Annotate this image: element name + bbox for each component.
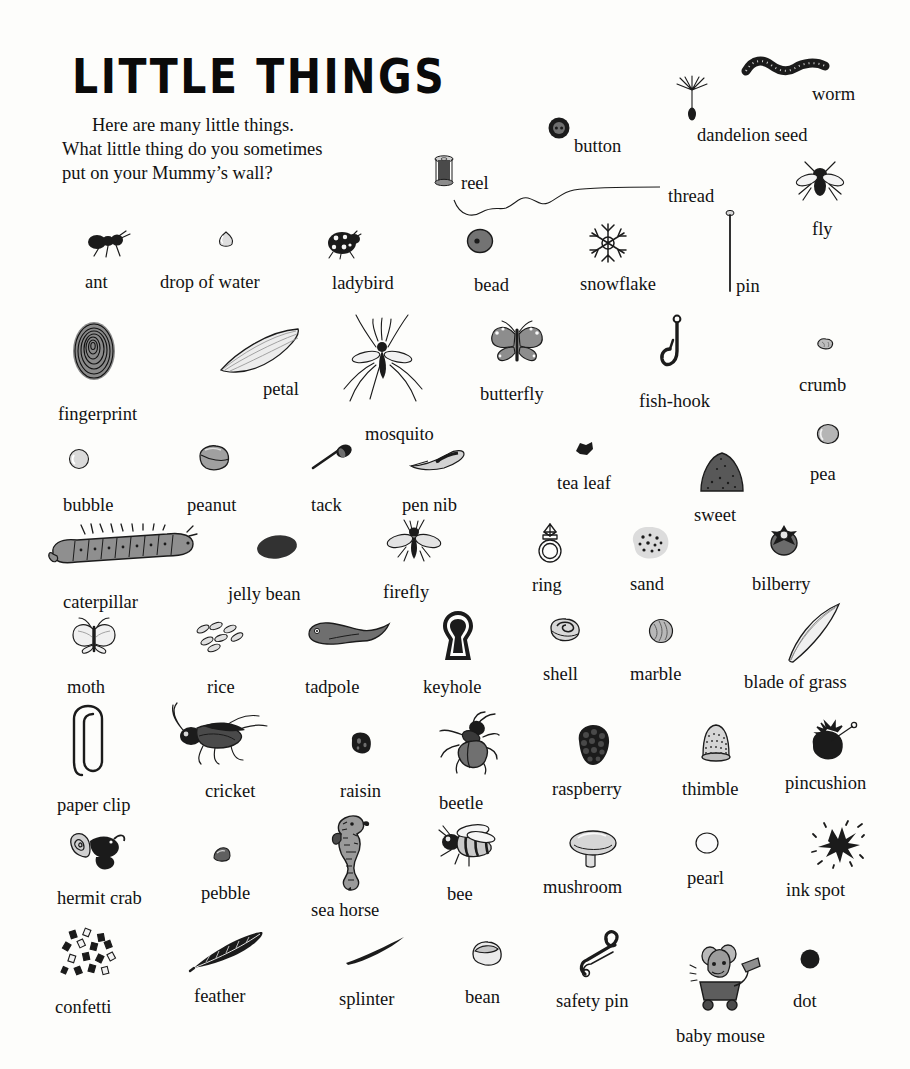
item-label-fingerprint: fingerprint bbox=[58, 404, 137, 424]
jelly-bean-icon bbox=[255, 533, 299, 561]
item-label-bee: bee bbox=[447, 884, 473, 904]
item-label-blade-of-grass: blade of grass bbox=[744, 672, 847, 692]
item-label-worm: worm bbox=[812, 84, 855, 104]
bee-icon bbox=[435, 824, 497, 870]
butterfly-icon bbox=[488, 320, 546, 364]
item-label-paper-clip: paper clip bbox=[57, 795, 130, 815]
bilberry-icon bbox=[766, 521, 802, 557]
item-label-jelly-bean: jelly bean bbox=[228, 584, 300, 604]
item-label-hermit-crab: hermit crab bbox=[57, 888, 142, 908]
splinter-icon bbox=[344, 935, 408, 967]
item-label-bubble: bubble bbox=[63, 495, 113, 515]
item-label-mosquito: mosquito bbox=[365, 424, 434, 444]
button-icon bbox=[548, 117, 570, 139]
pearl-icon bbox=[694, 831, 720, 855]
intro-line-2: What little thing do you sometimes bbox=[62, 137, 392, 161]
crumb-icon bbox=[815, 337, 835, 351]
item-label-button: button bbox=[574, 136, 621, 156]
tack-icon bbox=[311, 444, 353, 470]
item-label-mushroom: mushroom bbox=[543, 877, 622, 897]
item-label-pin: pin bbox=[736, 276, 760, 296]
caterpillar-icon bbox=[47, 524, 199, 568]
snowflake-icon bbox=[586, 222, 630, 264]
item-label-dandelion-seed: dandelion seed bbox=[697, 125, 807, 145]
item-label-bilberry: bilberry bbox=[752, 574, 811, 594]
ink-spot-icon bbox=[812, 823, 864, 865]
item-label-ring: ring bbox=[532, 575, 562, 595]
item-label-bean: bean bbox=[465, 987, 500, 1007]
item-label-sweet: sweet bbox=[694, 505, 736, 525]
ant-icon bbox=[86, 230, 136, 258]
pea-icon bbox=[816, 423, 840, 445]
item-label-crumb: crumb bbox=[799, 375, 846, 395]
page-canvas: LITTLE THINGS Here are many little thing… bbox=[0, 0, 910, 1069]
item-label-raspberry: raspberry bbox=[552, 779, 622, 799]
hermit-crab-icon bbox=[70, 827, 126, 873]
pincushion-icon bbox=[805, 721, 857, 763]
intro-text: Here are many little things. What little… bbox=[62, 113, 392, 185]
shell-icon bbox=[548, 617, 582, 643]
confetti-icon bbox=[60, 927, 120, 981]
item-label-rice: rice bbox=[207, 677, 235, 697]
tea-leaf-icon bbox=[573, 440, 595, 458]
item-label-keyhole: keyhole bbox=[423, 677, 482, 697]
item-label-baby-mouse: baby mouse bbox=[676, 1026, 765, 1046]
ring-icon bbox=[534, 522, 566, 564]
item-label-raisin: raisin bbox=[340, 781, 381, 801]
rice-icon bbox=[194, 621, 246, 651]
sea-horse-icon bbox=[327, 812, 371, 896]
item-label-tea-leaf: tea leaf bbox=[557, 473, 611, 493]
page-title: LITTLE THINGS bbox=[72, 48, 446, 105]
item-label-snowflake: snowflake bbox=[580, 274, 656, 294]
item-label-moth: moth bbox=[67, 677, 105, 697]
beetle-icon bbox=[437, 711, 499, 775]
item-label-safety-pin: safety pin bbox=[556, 991, 628, 1011]
sand-icon bbox=[628, 524, 672, 562]
item-label-petal: petal bbox=[263, 379, 299, 399]
item-label-pen-nib: pen nib bbox=[402, 495, 457, 515]
moth-icon bbox=[70, 617, 118, 655]
fingerprint-icon bbox=[70, 320, 118, 382]
firefly-icon bbox=[386, 519, 442, 567]
blade-of-grass-icon bbox=[785, 602, 843, 664]
item-label-fish-hook: fish-hook bbox=[639, 391, 710, 411]
pin-icon bbox=[723, 209, 737, 294]
fly-icon bbox=[793, 160, 847, 204]
mosquito-icon bbox=[340, 313, 426, 407]
baby-mouse-icon bbox=[690, 938, 762, 1014]
ladybird-icon bbox=[325, 230, 365, 260]
item-label-thimble: thimble bbox=[682, 779, 739, 799]
item-label-feather: feather bbox=[194, 986, 245, 1006]
item-label-tack: tack bbox=[311, 495, 342, 515]
item-label-dot: dot bbox=[793, 991, 817, 1011]
item-label-splinter: splinter bbox=[339, 989, 395, 1009]
peanut-icon bbox=[196, 444, 232, 472]
item-label-reel: reel bbox=[461, 173, 489, 193]
item-label-tadpole: tadpole bbox=[305, 677, 359, 697]
bubble-icon bbox=[68, 448, 90, 470]
worm-icon bbox=[743, 55, 829, 81]
item-label-drop-of-water: drop of water bbox=[160, 272, 260, 292]
intro-line-3: put on your Mummy’s wall? bbox=[62, 161, 392, 185]
item-label-firefly: firefly bbox=[383, 582, 429, 602]
drop-of-water-icon bbox=[216, 230, 236, 248]
raisin-icon bbox=[348, 730, 374, 756]
paper-clip-icon bbox=[72, 703, 106, 783]
item-label-caterpillar: caterpillar bbox=[63, 592, 138, 612]
pen-nib-icon bbox=[408, 448, 466, 472]
feather-icon bbox=[190, 930, 266, 972]
item-label-pincushion: pincushion bbox=[785, 773, 866, 793]
item-label-ant: ant bbox=[85, 272, 108, 292]
dot-icon bbox=[799, 948, 821, 970]
item-label-sand: sand bbox=[630, 574, 664, 594]
sweet-icon bbox=[696, 450, 748, 494]
item-label-ladybird: ladybird bbox=[332, 273, 394, 293]
item-label-fly: fly bbox=[812, 219, 833, 239]
bean-icon bbox=[470, 940, 504, 968]
item-label-pea: pea bbox=[810, 464, 836, 484]
item-label-beetle: beetle bbox=[439, 793, 483, 813]
dandelion-seed-icon bbox=[675, 76, 709, 122]
item-label-pearl: pearl bbox=[687, 868, 724, 888]
raspberry-icon bbox=[573, 723, 613, 767]
item-label-peanut: peanut bbox=[187, 495, 236, 515]
